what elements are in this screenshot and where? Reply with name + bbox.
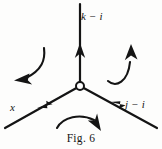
figure-caption: Fig. 6	[0, 133, 162, 145]
diagram-canvas	[0, 0, 162, 149]
arrowhead-group	[37, 43, 126, 109]
edge-lower-left-label: x	[10, 102, 15, 113]
rotation-arrow-bottom-head-icon	[88, 113, 101, 131]
edge-top-label: k − i	[81, 11, 103, 22]
edge-lower-right-label: j − i	[125, 99, 145, 110]
rotation-arrow-right-head-icon	[125, 44, 138, 60]
trivalent-vertex-node	[76, 82, 84, 90]
rotation-arrow-bottom-path	[57, 117, 94, 128]
rotation-arrow-right-path	[108, 62, 130, 84]
figure-6-diagram: k − i j − i x Fig. 6	[0, 0, 162, 149]
rotation-arrow-left-path	[26, 48, 44, 78]
